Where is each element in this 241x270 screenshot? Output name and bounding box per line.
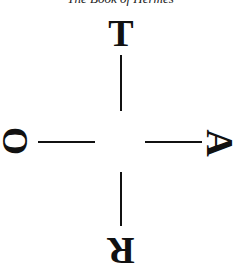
letter-left: O — [0, 122, 33, 160]
running-title: The Book of Hermes — [0, 0, 241, 7]
letter-right: A — [201, 123, 239, 163]
letter-top: T — [104, 14, 138, 52]
arm-bottom-line — [120, 172, 122, 226]
arm-top-line — [120, 55, 122, 111]
arm-right-line — [145, 141, 202, 143]
arm-left-line — [38, 141, 95, 143]
letter-bottom: R — [104, 232, 138, 270]
